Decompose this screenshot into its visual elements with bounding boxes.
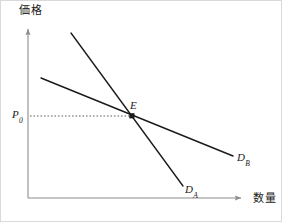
da-label-subscript: A — [193, 191, 198, 200]
db-label-subscript: B — [245, 159, 250, 168]
demand-curve-db-label: DB — [237, 152, 250, 166]
x-axis-label: 数量 — [253, 193, 276, 204]
demand-curve-da-label: DA — [185, 184, 198, 198]
p0-label-base: P — [12, 108, 19, 120]
y-axis-label: 価格 — [19, 5, 42, 16]
equilibrium-price-label: P0 — [12, 109, 22, 123]
chart-plot-area — [1, 1, 282, 222]
equilibrium-point-label: E — [130, 100, 137, 111]
p0-label-subscript: 0 — [19, 116, 23, 125]
equilibrium-point-marker — [129, 113, 134, 118]
da-label-base: D — [185, 183, 193, 195]
demand-curve-figure: 価格 数量 DA DB E P0 — [0, 0, 282, 222]
db-label-base: D — [237, 151, 245, 163]
demand-curve-da — [71, 33, 183, 186]
demand-curve-db — [41, 78, 233, 156]
